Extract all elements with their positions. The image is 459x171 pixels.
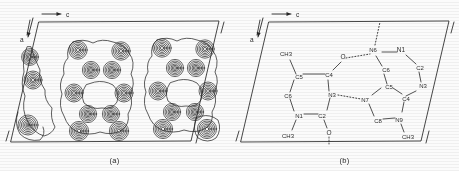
atom-contour xyxy=(153,119,172,138)
hydrogen-bonds xyxy=(338,22,380,99)
hbond-o-n6 xyxy=(346,54,370,58)
panel-b-molecular-structure: CH3 C5 C4 O C6 N1 C2 N3 CH3 O N6 N1 C6 C… xyxy=(230,0,459,171)
panel-a-caption: (a) xyxy=(0,156,229,165)
atom-contour xyxy=(103,61,120,78)
atom-contour xyxy=(102,105,119,122)
axis-a-label-b: a xyxy=(250,36,254,43)
label-n9: N9 xyxy=(395,117,403,123)
label-n1: N1 xyxy=(295,113,303,119)
label-c6-purine: C6 xyxy=(382,67,390,73)
atom-contour xyxy=(82,61,99,78)
atom-contour xyxy=(186,103,203,120)
label-ch3-n1: CH3 xyxy=(282,133,295,139)
label-c6: C6 xyxy=(284,93,292,99)
label-o-c2: O xyxy=(326,129,331,136)
panel-a-electron-density: c a (a) xyxy=(0,0,229,171)
atom-contour xyxy=(153,39,171,57)
label-n3-purine: N3 xyxy=(419,83,427,89)
atom-contour xyxy=(69,121,88,140)
label-ch3-c5: CH3 xyxy=(280,51,293,57)
label-n3: N3 xyxy=(328,92,336,98)
density-cluster-centre xyxy=(60,40,133,140)
label-n6: N6 xyxy=(369,47,377,53)
electron-density-svg: c a xyxy=(0,0,229,171)
density-cluster-right xyxy=(144,38,219,141)
atom-contour xyxy=(18,115,38,135)
label-c2: C2 xyxy=(318,113,326,119)
panel-b-caption: (b) xyxy=(230,156,459,165)
axis-c-arrowhead xyxy=(57,12,62,16)
atom-contour xyxy=(109,121,128,140)
hbond-n3-n7 xyxy=(338,95,361,99)
label-o-c4: O xyxy=(340,53,345,60)
label-c8: C8 xyxy=(374,118,382,124)
label-n1-purine: N1 xyxy=(397,46,406,53)
label-c4: C4 xyxy=(325,72,333,78)
axis-c-label-a: c xyxy=(66,11,70,18)
atom-contour xyxy=(69,41,87,59)
label-c2-purine: C2 xyxy=(416,65,424,71)
molecular-structure-svg: CH3 C5 C4 O C6 N1 C2 N3 CH3 O N6 N1 C6 C… xyxy=(230,0,459,171)
hbond-n6-up xyxy=(375,22,380,45)
axis-c-arrowhead-b xyxy=(287,12,292,16)
axis-arrows-a xyxy=(27,12,61,37)
label-c5: C5 xyxy=(295,74,303,80)
axis-c-label-b: c xyxy=(296,11,300,18)
label-ch3-n9: CH3 xyxy=(402,134,415,140)
label-n7: N7 xyxy=(361,97,369,103)
atom-contour xyxy=(163,103,180,120)
atom-contour xyxy=(24,71,42,89)
axis-arrows-b xyxy=(257,12,291,37)
atom-contour xyxy=(149,82,167,100)
atom-contour xyxy=(65,84,83,102)
atom-contour xyxy=(197,119,216,138)
pyrimidine-ring-bonds xyxy=(290,60,341,144)
label-c4-purine: C4 xyxy=(402,96,410,102)
label-c5-purine: C5 xyxy=(385,84,393,90)
atom-contour xyxy=(79,105,96,122)
axis-a-label-a: a xyxy=(20,36,24,43)
atom-contour xyxy=(187,59,204,76)
atom-contour xyxy=(166,59,183,76)
